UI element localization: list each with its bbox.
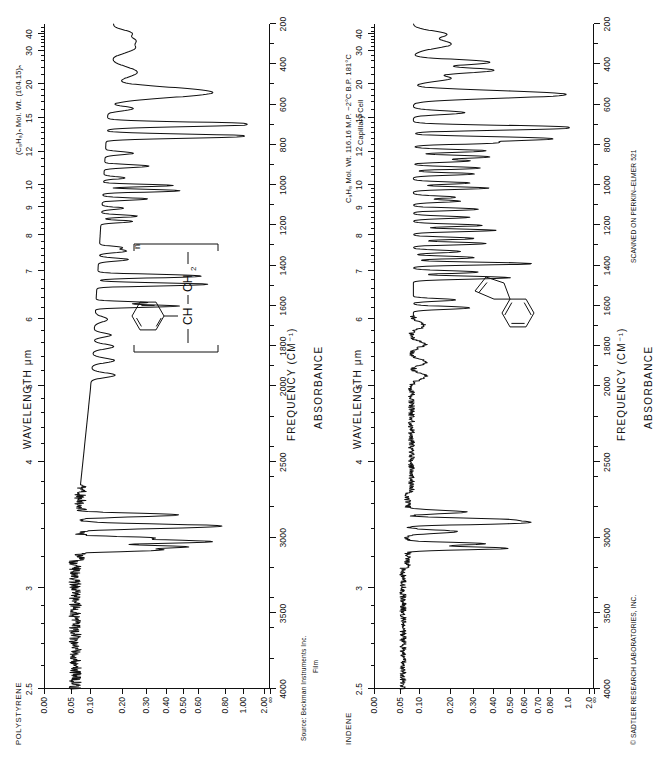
wavelength-minor-tick: [371, 127, 375, 128]
compound-name: POLYSTYRENE: [14, 682, 23, 745]
frequency-tick: [270, 385, 276, 386]
wavelength-minor-tick: [41, 212, 45, 213]
instrument-line: SCANNED ON PERKIN–ELMER 521: [630, 149, 637, 263]
wavelength-minor-tick: [41, 42, 45, 43]
absorbance-tick-label: 0.20: [445, 697, 455, 714]
frequency-tick: [270, 612, 276, 613]
frequency-tick-label: 1800: [602, 336, 612, 356]
wavelength-minor-tick: [371, 255, 375, 256]
wavelength-minor-tick: [41, 279, 45, 280]
frequency-tick-label: 200: [602, 17, 612, 32]
wavelength-tick-label: 15: [354, 113, 364, 123]
frequency-tick-label: 3500: [602, 604, 612, 624]
wavelength-tick-label: 2.5: [354, 683, 364, 695]
wavelength-minor-tick: [41, 503, 45, 504]
plot-area-polystyrene: [44, 24, 270, 689]
wavelength-minor-tick: [41, 197, 45, 198]
frequency-minor-tick: [270, 567, 274, 568]
wavelength-tick-label: 40: [354, 29, 364, 39]
wavelength-minor-tick: [371, 60, 375, 61]
wavelength-tick: [38, 385, 44, 386]
frequency-tick: [270, 224, 276, 225]
frequency-minor-tick: [270, 476, 274, 477]
wavelength-tick-label: 20: [354, 79, 364, 89]
frequency-minor-tick: [270, 124, 274, 125]
frequency-minor-tick: [594, 658, 598, 659]
absorbance-tick: [589, 689, 590, 694]
wavelength-minor-tick: [371, 370, 375, 371]
absorbance-tick: [270, 689, 271, 694]
wavelength-minor-tick: [41, 127, 45, 128]
frequency-minor-tick: [270, 83, 274, 84]
frequency-minor-tick: [594, 476, 598, 477]
absorbance-tick-label: 0.50: [505, 697, 515, 714]
wavelength-minor-tick: [41, 138, 45, 139]
frequency-tick-label: 4000: [602, 679, 612, 699]
wavelength-minor-tick: [41, 528, 45, 529]
frequency-tick-label: 3000: [278, 528, 288, 548]
wavelength-minor-tick: [371, 192, 375, 193]
wavelength-tick-label: 10: [24, 180, 34, 190]
absorbance-axis-title: ABSORBANCE: [313, 346, 324, 429]
absorbance-tick: [510, 689, 511, 694]
absorbance-tick-label: 1.0: [563, 697, 573, 709]
frequency-minor-tick: [594, 597, 598, 598]
wavelength-minor-tick: [41, 307, 45, 308]
wavelength-tick: [38, 184, 44, 185]
wavelength-minor-tick: [41, 623, 45, 624]
absorbance-tick-label: ∞: [265, 697, 275, 703]
wavelength-minor-tick: [41, 74, 45, 75]
absorbance-tick-label: 1.00: [238, 697, 248, 714]
frequency-tick: [270, 265, 276, 266]
wavelength-minor-tick: [371, 481, 375, 482]
wavelength-minor-tick: [41, 255, 45, 256]
absorbance-tick: [122, 689, 123, 694]
svg-text:n: n: [132, 244, 142, 249]
frequency-tick-label: 800: [278, 137, 288, 152]
wavelength-tick-label: 10: [354, 180, 364, 190]
wavelength-minor-tick: [371, 132, 375, 133]
absorbance-tick-label: 0.50: [178, 697, 188, 714]
wavelength-minor-tick: [371, 503, 375, 504]
wavelength-minor-tick: [41, 443, 45, 444]
wavelength-tick-label: 8: [24, 233, 34, 238]
wavelength-tick: [368, 33, 374, 34]
wavelength-tick-label: 12: [24, 147, 34, 157]
wavelength-tick: [38, 461, 44, 462]
wavelength-tick: [368, 117, 374, 118]
wavelength-tick: [38, 318, 44, 319]
frequency-tick-label: 1200: [602, 216, 612, 236]
wavelength-minor-tick: [371, 36, 375, 37]
absorbance-tick-label: 0.70: [533, 697, 543, 714]
frequency-minor-tick: [594, 325, 598, 326]
frequency-tick-label: 200: [278, 17, 288, 32]
absorbance-tick: [400, 689, 401, 694]
frequency-minor-tick: [270, 43, 274, 44]
wavelength-axis-title: WAVELENGTH μm: [352, 349, 363, 449]
wavelength-tick: [38, 117, 44, 118]
frequency-tick: [270, 345, 276, 346]
spectrum-panel-polystyrene: (C₈H₈)ₙ Mol. Wt. (104.15)ₙ POLYSTYRENE S…: [0, 0, 330, 759]
absorbance-tick-label: 0.05: [66, 697, 76, 714]
sample-form-line: Film: [312, 660, 319, 673]
wavelength-minor-tick: [41, 39, 45, 40]
wavelength-minor-tick: [371, 89, 375, 90]
frequency-tick: [270, 184, 276, 185]
wavelength-minor-tick: [371, 356, 375, 357]
wavelength-minor-tick: [41, 132, 45, 133]
frequency-minor-tick: [270, 506, 274, 507]
absorbance-tick: [44, 689, 45, 694]
frequency-tick-label: 1400: [278, 256, 288, 276]
frequency-minor-tick: [270, 244, 274, 245]
wavelength-minor-tick: [41, 330, 45, 331]
frequency-tick-label: 1800: [278, 336, 288, 356]
wavelength-minor-tick: [371, 330, 375, 331]
wavelength-tick-label: 12: [354, 147, 364, 157]
source-line: Source: Beckman Instruments Inc.: [300, 635, 307, 741]
wavelength-minor-tick: [371, 138, 375, 139]
frequency-minor-tick: [270, 325, 274, 326]
frequency-minor-tick: [270, 446, 274, 447]
frequency-tick-label: 2500: [278, 452, 288, 472]
frequency-minor-tick: [594, 124, 598, 125]
wavelength-tick: [38, 587, 44, 588]
